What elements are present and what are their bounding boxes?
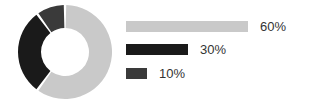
legend-bar-10 <box>126 68 147 79</box>
legend-label-60: 60% <box>260 20 286 33</box>
donut-segment-30 <box>18 15 50 90</box>
legend-label-10: 10% <box>159 67 185 80</box>
legend-bar-30 <box>126 44 188 55</box>
chart-figure: 60% 30% 10% <box>0 0 310 102</box>
legend-bar-60 <box>126 21 248 32</box>
legend-row: 10% <box>126 66 185 80</box>
donut-segments <box>18 5 112 99</box>
legend-row: 30% <box>126 42 226 56</box>
legend-label-30: 30% <box>200 43 226 56</box>
donut-chart <box>16 4 114 100</box>
bar-legend: 60% 30% 10% <box>126 10 310 94</box>
legend-row: 60% <box>126 19 286 33</box>
